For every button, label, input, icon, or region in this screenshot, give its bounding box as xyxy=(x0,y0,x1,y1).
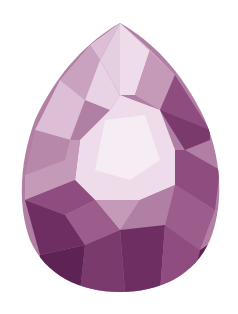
gem-illustration: Illustration of a pink-purple pear (tear… xyxy=(0,0,238,314)
pear-gem-icon xyxy=(0,0,238,314)
gem-facets xyxy=(0,0,238,314)
